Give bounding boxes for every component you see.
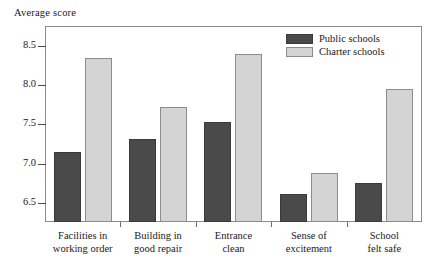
bar-charter (311, 173, 338, 222)
x-axis-category-line: good repair (120, 243, 195, 256)
bar-chart: Average score 8.58.07.57.06.5 Facilities… (0, 0, 432, 278)
legend-item-public: Public schools (286, 33, 385, 44)
x-axis-tick (196, 222, 197, 227)
legend-swatch-public-icon (286, 34, 313, 44)
x-axis-category-line: felt safe (347, 243, 422, 256)
legend-swatch-charter-icon (286, 47, 313, 57)
bar-public (355, 183, 382, 222)
x-axis-category-label: Facilities inworking order (45, 230, 120, 255)
legend-label-public: Public schools (319, 33, 380, 44)
x-axis-category-label: Building ingood repair (120, 230, 195, 255)
x-axis-tick (347, 222, 348, 227)
y-axis-tick-label: 6.5 (0, 197, 36, 208)
bar-group (120, 26, 195, 222)
bar-charter (160, 107, 187, 222)
x-axis-category-label: Entranceclean (196, 230, 271, 255)
bar-group (45, 26, 120, 222)
legend-item-charter: Charter schools (286, 46, 385, 57)
legend-label-charter: Charter schools (319, 46, 385, 57)
x-axis-category-line: Sense of (271, 230, 346, 243)
y-axis-tick-label: 8.5 (0, 40, 36, 51)
bar-charter (386, 89, 413, 222)
y-axis-tick-label: 7.5 (0, 118, 36, 129)
bar-public (54, 152, 81, 222)
x-axis-category-line: Facilities in (45, 230, 120, 243)
x-axis-category-label: Schoolfelt safe (347, 230, 422, 255)
x-axis-category-line: excitement (271, 243, 346, 256)
x-axis-category-line: clean (196, 243, 271, 256)
x-axis-category-line: School (347, 230, 422, 243)
y-axis-title: Average score (14, 7, 76, 18)
x-axis-tick (120, 222, 121, 227)
bar-public (280, 194, 307, 222)
x-axis-category-line: working order (45, 243, 120, 256)
y-axis-tick-label: 7.0 (0, 158, 36, 169)
x-axis-tick (271, 222, 272, 227)
chart-legend: Public schools Charter schools (286, 33, 385, 57)
bar-public (129, 139, 156, 222)
x-axis-category-line: Entrance (196, 230, 271, 243)
bar-charter (235, 54, 262, 222)
bar-public (204, 122, 231, 222)
bar-charter (85, 58, 112, 223)
x-axis-category-label: Sense ofexcitement (271, 230, 346, 255)
bar-group (196, 26, 271, 222)
y-axis-tick-label: 8.0 (0, 79, 36, 90)
x-axis-category-line: Building in (120, 230, 195, 243)
